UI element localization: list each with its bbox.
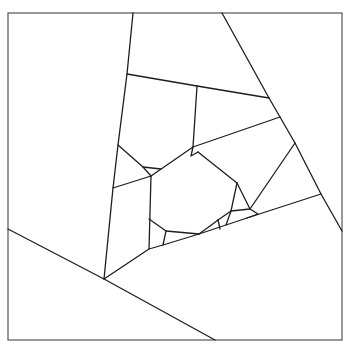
edge-right-inner-cross: [237, 143, 295, 209]
edge-group: [8, 13, 342, 340]
polygon-diagram: [0, 0, 350, 347]
edge-bottom-left-diagonal: [8, 229, 215, 340]
outer-frame: [8, 13, 342, 340]
diagram-canvas: [0, 0, 350, 347]
edge-right-diagonal: [222, 13, 342, 231]
edge-lower-right-small: [247, 209, 258, 218]
edge-inner-left-small: [149, 219, 166, 245]
edge-left-notch-cross: [143, 167, 161, 169]
edge-upper-cross: [127, 74, 269, 98]
edge-lower-wedge: [104, 194, 321, 279]
edge-inner-vertical: [193, 86, 197, 147]
edge-upper-right-notch: [191, 147, 198, 156]
edge-center-right-diagonal: [198, 152, 237, 183]
edge-center-bottom-right: [199, 220, 218, 234]
edge-right-inner: [226, 183, 237, 225]
edge-right-inner-cross-2: [231, 209, 250, 211]
edge-inner-left-small-cross: [166, 231, 199, 234]
edge-left-notch: [118, 145, 151, 176]
edge-center-left-vertical: [149, 176, 151, 249]
